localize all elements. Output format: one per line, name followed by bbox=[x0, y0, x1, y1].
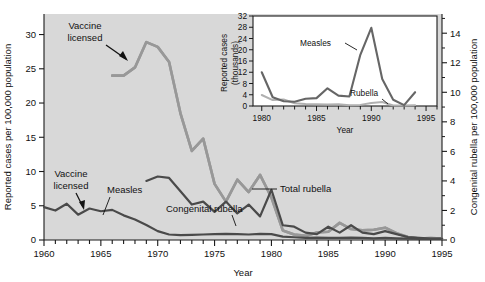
main-left-tick-label: 10 bbox=[25, 166, 36, 177]
inset-y-axis-title-line1: Reported cases bbox=[219, 34, 229, 92]
inset-x-tick-label: 1985 bbox=[307, 113, 326, 123]
main-right-tick-label: 2 bbox=[450, 205, 455, 216]
figure-container: 051015202530 02468101214 196019651970197… bbox=[0, 0, 485, 282]
main-right-tick-label: 0 bbox=[450, 234, 455, 245]
main-right-tick-label: 8 bbox=[450, 116, 455, 127]
inset-plot-background bbox=[253, 16, 437, 106]
inset-annotation-rubella: Rubella bbox=[350, 88, 379, 98]
annotation-total-rubella: Total rubella bbox=[280, 183, 332, 194]
main-left-tick-label: 0 bbox=[31, 234, 36, 245]
inset-x-tick-label: 1980 bbox=[253, 113, 272, 123]
main-right-tick-label: 12 bbox=[450, 57, 461, 68]
annotation-vaccine-licensed-measles-line1: Vaccine bbox=[68, 20, 101, 31]
main-y-axis-right-title: Congenital rubella per 100,000 populatio… bbox=[468, 39, 479, 215]
main-left-tick-label: 15 bbox=[25, 132, 36, 143]
main-right-tick-label: 10 bbox=[450, 87, 461, 98]
inset-y-tick-label: 4 bbox=[242, 90, 247, 100]
inset-y-tick-label: 0 bbox=[242, 101, 247, 111]
inset-y-tick-label: 8 bbox=[242, 79, 247, 89]
main-x-tick-label: 1990 bbox=[375, 248, 396, 259]
main-y-axis-left-title: Reported cases per 100,000 population bbox=[2, 44, 13, 210]
inset-annotation-measles: Measles bbox=[300, 38, 331, 48]
inset-y-axis-title-line2: (thousands) bbox=[230, 41, 240, 85]
inset-x-tick-label: 1995 bbox=[417, 113, 436, 123]
inset-x-tick-label: 1990 bbox=[362, 113, 381, 123]
main-right-tick-label: 4 bbox=[450, 175, 455, 186]
inset-x-axis-title: Year bbox=[337, 125, 354, 135]
main-left-tick-label: 5 bbox=[31, 200, 36, 211]
main-left-tick-label: 30 bbox=[25, 29, 36, 40]
main-x-axis-title: Year bbox=[233, 267, 252, 278]
annotation-vaccine-licensed-rubella-line2: licensed bbox=[54, 180, 89, 191]
main-x-tick-label: 1980 bbox=[261, 248, 282, 259]
main-x-tick-group: 19601965197019751980198519901995 bbox=[33, 240, 452, 259]
annotation-vaccine-licensed-measles-line2: licensed bbox=[68, 32, 103, 43]
main-x-tick-label: 1965 bbox=[90, 248, 111, 259]
main-x-tick-label: 1995 bbox=[431, 248, 452, 259]
annotation-vaccine-licensed-rubella-line1: Vaccine bbox=[54, 168, 87, 179]
main-x-tick-label: 1985 bbox=[318, 248, 339, 259]
main-left-tick-group: 051015202530 bbox=[25, 29, 44, 245]
inset-y-tick-label: 32 bbox=[238, 11, 248, 21]
main-left-tick-label: 20 bbox=[25, 97, 36, 108]
annotation-measles: Measles bbox=[107, 184, 143, 195]
main-right-tick-label: 14 bbox=[450, 28, 461, 39]
chart-svg: 051015202530 02468101214 196019651970197… bbox=[0, 0, 485, 282]
annotation-congenital-rubella: Congenital rubella bbox=[166, 203, 243, 214]
main-right-tick-label: 6 bbox=[450, 146, 455, 157]
main-x-tick-label: 1960 bbox=[33, 248, 54, 259]
main-x-tick-label: 1970 bbox=[147, 248, 168, 259]
main-x-tick-label: 1975 bbox=[204, 248, 225, 259]
main-left-tick-label: 25 bbox=[25, 63, 36, 74]
inset-y-tick-label: 28 bbox=[238, 22, 248, 32]
main-right-tick-group: 02468101214 bbox=[442, 18, 461, 245]
